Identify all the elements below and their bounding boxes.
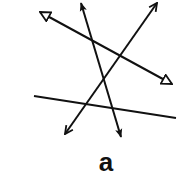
hollow-triangle-double-arrow-line (40, 12, 172, 84)
figure-label: a (0, 147, 184, 177)
plain-line (34, 96, 176, 118)
filled-double-arrow-line (81, 3, 121, 137)
